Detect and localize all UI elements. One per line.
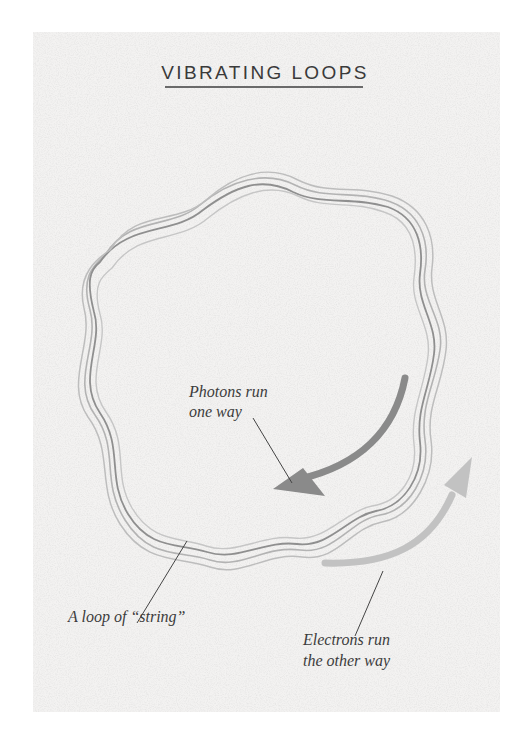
electrons-leader	[355, 571, 383, 636]
electron-arrow	[325, 457, 472, 563]
photons-leader	[253, 418, 292, 483]
loop-strand-2	[90, 184, 435, 554]
photons-label-line2: one way	[189, 401, 242, 422]
loop-strand-4	[96, 190, 429, 549]
loop-label: A loop of “string”	[68, 606, 186, 627]
loop-diagram	[0, 0, 530, 746]
photon-arrow	[273, 378, 405, 496]
string-loop	[78, 172, 446, 569]
electrons-label-line2: the other way	[303, 650, 390, 671]
electrons-label-line1: Electrons run	[303, 629, 390, 650]
leader-lines	[137, 418, 383, 636]
loop-strand-1	[85, 178, 441, 562]
photons-label-line1: Photons run	[189, 381, 268, 402]
